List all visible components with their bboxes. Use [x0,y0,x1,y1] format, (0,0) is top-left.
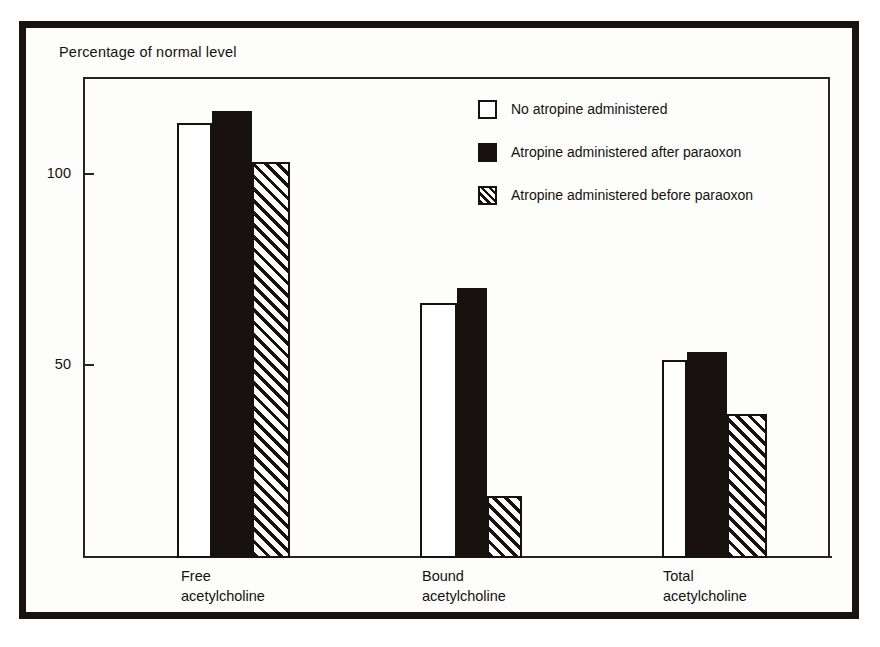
bar-total-atropine-after [687,352,727,558]
x-label-total: Total acetylcholine [663,566,747,606]
legend-item-atropine-after: Atropine administered after paraoxon [478,141,741,163]
bar-total-no-atropine [662,360,687,558]
x-label-total-line1: Total [663,566,747,586]
legend-label-atropine-after: Atropine administered after paraoxon [511,144,741,160]
bar-bound-atropine-after [457,288,487,558]
bar-free-atropine-before [252,162,290,558]
y-tick-100 [83,173,94,175]
legend-swatch-white-icon [478,100,497,119]
x-label-free-line1: Free [181,566,265,586]
x-label-free-line2: acetylcholine [181,586,265,606]
figure-border: Percentage of normal level 100 50 Free a… [19,21,859,619]
y-tick-label-100: 100 [31,165,71,181]
legend-swatch-black-icon [478,143,497,162]
y-tick-label-50: 50 [31,356,71,372]
x-label-bound-line1: Bound [422,566,506,586]
y-tick-50 [83,364,94,366]
x-label-bound: Bound acetylcholine [422,566,506,606]
chart-canvas: Percentage of normal level 100 50 Free a… [26,28,866,626]
x-label-total-line2: acetylcholine [663,586,747,606]
y-axis-title: Percentage of normal level [59,44,237,60]
legend-swatch-hatched-icon [478,186,497,205]
bar-free-no-atropine [177,123,212,558]
legend-label-atropine-before: Atropine administered before paraoxon [511,187,753,203]
bar-bound-no-atropine [420,303,457,558]
legend-item-no-atropine: No atropine administered [478,98,667,120]
bar-bound-atropine-before [487,496,522,558]
bar-total-atropine-before [727,414,767,558]
legend-label-no-atropine: No atropine administered [511,101,667,117]
x-label-bound-line2: acetylcholine [422,586,506,606]
y-axis-line [83,77,85,558]
bar-free-atropine-after [212,111,252,558]
x-label-free: Free acetylcholine [181,566,265,606]
legend-item-atropine-before: Atropine administered before paraoxon [478,184,753,206]
